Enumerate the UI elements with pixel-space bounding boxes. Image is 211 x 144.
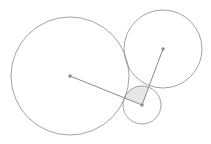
large-circle-center-point	[68, 74, 71, 77]
upper-right-circle-center-point	[161, 47, 164, 50]
tangent-circles-diagram	[0, 0, 211, 144]
small-circle-center-point	[140, 103, 143, 106]
segment-upper-to-small	[142, 49, 163, 105]
shaded-angle-sector	[124, 86, 148, 105]
